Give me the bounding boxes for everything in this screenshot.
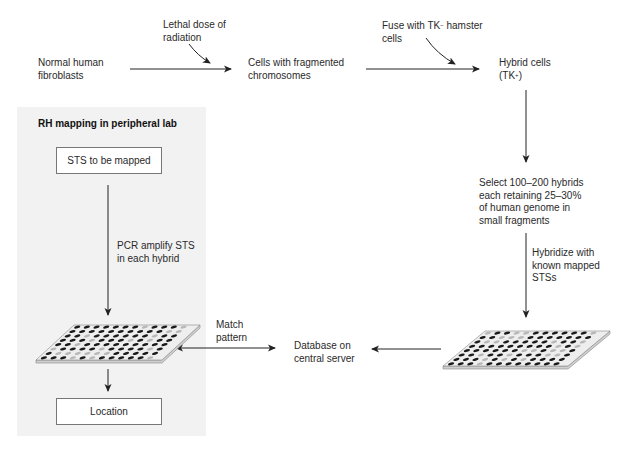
plate-surface	[36, 325, 200, 360]
diagram-arrows	[0, 0, 619, 451]
plate-surface	[443, 331, 610, 366]
hybrid-panel-plate-peripheral	[36, 325, 200, 363]
arrow-radiation-curve	[189, 44, 210, 63]
arrow-fuse-curve	[426, 38, 455, 64]
hybrid-panel-plate-central	[443, 331, 610, 369]
